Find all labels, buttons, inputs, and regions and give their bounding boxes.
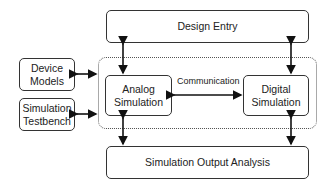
connector-arrows bbox=[0, 0, 330, 188]
